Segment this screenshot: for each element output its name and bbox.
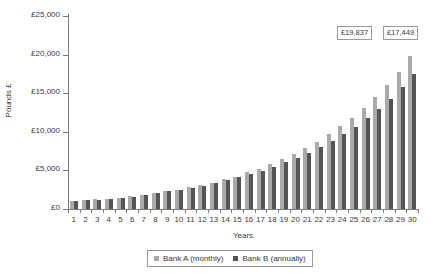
bar-bank-b bbox=[366, 118, 370, 209]
x-tick-mark bbox=[220, 209, 221, 213]
legend-swatch-icon bbox=[233, 256, 238, 261]
bar-bank-b bbox=[97, 200, 101, 209]
bar-bank-b bbox=[109, 199, 113, 209]
annotation-bank-b-final: £17,449 bbox=[383, 26, 418, 40]
bar-bank-b bbox=[237, 177, 241, 209]
chart-legend: Bank A (monthly)Bank B (annually) bbox=[147, 250, 313, 267]
bar-bank-b bbox=[144, 195, 148, 209]
bar-bank-b bbox=[191, 188, 195, 209]
bar-bank-b bbox=[377, 109, 381, 209]
x-tick-mark bbox=[80, 209, 81, 213]
x-tick-mark bbox=[383, 209, 384, 213]
bar-bank-b bbox=[121, 198, 125, 209]
x-tick-mark bbox=[255, 209, 256, 213]
x-tick-mark bbox=[243, 209, 244, 213]
x-tick-mark bbox=[150, 209, 151, 213]
y-tick-label: £0 bbox=[51, 203, 60, 212]
x-tick-mark bbox=[126, 209, 127, 213]
y-axis-title: Pounds £ bbox=[4, 66, 13, 136]
bar-bank-b bbox=[401, 87, 405, 209]
x-tick-mark bbox=[406, 209, 407, 213]
bar-bank-b bbox=[261, 171, 265, 209]
annotation-bank-a-final: £19,837 bbox=[337, 26, 372, 40]
y-tick-label: £25,000 bbox=[31, 10, 60, 19]
x-tick-mark bbox=[231, 209, 232, 213]
x-tick-mark bbox=[173, 209, 174, 213]
x-tick-label: 30 bbox=[405, 215, 419, 224]
x-tick-mark bbox=[360, 209, 361, 213]
bar-bank-b bbox=[226, 180, 230, 209]
bar-chart: Pounds £ £25,000£20,000£15,000£10,000£5,… bbox=[0, 0, 431, 273]
bar-bank-b bbox=[331, 141, 335, 209]
bar-bank-b bbox=[156, 193, 160, 209]
x-tick-mark bbox=[266, 209, 267, 213]
x-tick-mark bbox=[185, 209, 186, 213]
legend-swatch-icon bbox=[154, 256, 159, 261]
bar-bank-b bbox=[342, 134, 346, 209]
x-tick-mark bbox=[313, 209, 314, 213]
x-tick-mark bbox=[161, 209, 162, 213]
x-tick-mark bbox=[418, 209, 419, 213]
legend-label: Bank B (annually) bbox=[242, 253, 305, 264]
y-tick-label: £20,000 bbox=[31, 49, 60, 58]
bar-bank-b bbox=[167, 191, 171, 209]
x-axis-title: Years bbox=[68, 231, 418, 240]
bar-bank-b bbox=[202, 186, 206, 209]
x-tick-mark bbox=[348, 209, 349, 213]
x-tick-mark bbox=[278, 209, 279, 213]
legend-item[interactable]: Bank B (annually) bbox=[233, 253, 305, 264]
x-tick-mark bbox=[336, 209, 337, 213]
bar-bank-b bbox=[412, 74, 416, 209]
bar-bank-b bbox=[319, 147, 323, 209]
y-tick-label: £5,000 bbox=[36, 164, 60, 173]
x-tick-mark bbox=[115, 209, 116, 213]
x-tick-mark bbox=[325, 209, 326, 213]
bar-bank-b bbox=[86, 200, 90, 209]
bar-bank-b bbox=[284, 162, 288, 209]
bar-bank-b bbox=[296, 158, 300, 209]
bars-area bbox=[68, 16, 418, 209]
bar-bank-b bbox=[354, 127, 358, 209]
bar-bank-b bbox=[249, 174, 253, 209]
x-tick-mark bbox=[196, 209, 197, 213]
bar-bank-b bbox=[179, 190, 183, 209]
legend-label: Bank A (monthly) bbox=[163, 253, 223, 264]
x-tick-mark bbox=[371, 209, 372, 213]
x-tick-mark bbox=[208, 209, 209, 213]
bar-bank-b bbox=[307, 153, 311, 209]
x-tick-mark bbox=[301, 209, 302, 213]
x-tick-mark bbox=[395, 209, 396, 213]
bar-bank-b bbox=[272, 167, 276, 209]
legend-item[interactable]: Bank A (monthly) bbox=[154, 253, 223, 264]
y-tick-label: £10,000 bbox=[31, 126, 60, 135]
bar-bank-b bbox=[214, 183, 218, 209]
x-tick-mark bbox=[138, 209, 139, 213]
x-tick-mark bbox=[91, 209, 92, 213]
x-tick-mark bbox=[68, 209, 69, 213]
bar-bank-b bbox=[132, 197, 136, 210]
x-tick-mark bbox=[290, 209, 291, 213]
bar-bank-b bbox=[389, 99, 393, 209]
y-tick-label: £15,000 bbox=[31, 87, 60, 96]
x-tick-mark bbox=[103, 209, 104, 213]
bar-bank-b bbox=[74, 201, 78, 209]
